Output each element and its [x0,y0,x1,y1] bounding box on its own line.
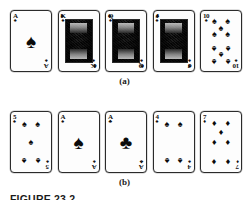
card-corner-index-top-left: A♠ [13,13,18,24]
spade-suit-icon: ♠ [164,120,169,129]
card-row-a: A♠A♠♠K♠K♠♠♠Q♠Q♠♠♠J♠J♠♠♠10♠10♠♠♠♠♠♠♠♠♠♠♠ [10,10,242,72]
card-corner-index-bottom-right: A♠ [92,159,97,170]
card-rank-label: A [139,164,144,170]
card-corner-index-bottom-right: 4♠ [188,159,191,170]
club-suit-icon: ♣ [108,119,113,125]
card-row-b: 5♠5♠♠♠♠♠♠A♠A♠♠A♣A♣♣4♠4♠♠♠♠♠7♦7♦♦♦♦♦♦♦♦ [10,111,242,173]
spade-suit-icon: ♠ [225,44,230,53]
card-corner-index-bottom-right: 5♠ [46,159,49,170]
spade-suit-icon: ♠ [225,17,230,26]
spade-suit-icon: ♠ [46,159,49,165]
spade-suit-icon: ♠ [225,30,230,39]
playing-card-figure: A♠A♠♠K♠K♠♠♠Q♠Q♠♠♠J♠J♠♠♠10♠10♠♠♠♠♠♠♠♠♠♠♠ … [0,0,249,200]
card-pip-field: ♦♦♦♦♦♦♦ [209,117,233,167]
diamond-suit-icon: ♦ [219,128,224,137]
card-corner-index-top-left: 7♦ [203,114,206,125]
court-card-artwork [112,19,140,63]
playing-card-k-spade[interactable]: K♠K♠♠♠ [58,10,100,72]
spade-suit-icon: ♠ [156,13,160,20]
panel-label-a: (a) [0,76,249,86]
spade-suit-icon: ♠ [212,44,217,53]
card-corner-index-top-left: 4♠ [156,114,159,125]
card-rank-label: A [44,63,49,69]
spade-suit-icon: ♠ [29,138,34,147]
spade-suit-icon: ♠ [93,62,97,69]
card-corner-index-bottom-right: A♣ [139,159,144,170]
diamond-suit-icon: ♦ [212,157,217,166]
spade-suit-icon: ♠ [219,50,224,59]
spade-suit-icon: ♠ [22,120,27,129]
playing-card-10-spade[interactable]: 10♠10♠♠♠♠♠♠♠♠♠♠♠ [200,10,242,72]
club-suit-icon: ♣ [120,133,132,152]
card-corner-index-top-left: A♠ [61,114,66,125]
card-corner-index-top-left: 5♠ [13,114,16,125]
card-rank-label: 4 [188,164,191,170]
spade-suit-icon: ♠ [188,62,192,69]
spade-suit-icon: ♠ [212,30,217,39]
card-corner-index-bottom-right: 10♠ [233,58,239,69]
spade-suit-icon: ♠ [26,32,36,51]
playing-card-5-spade[interactable]: 5♠5♠♠♠♠♠♠ [10,111,52,173]
card-pip-field: ♠♠♠♠♠♠♠♠♠♠ [209,16,233,66]
court-card-artwork [65,19,93,63]
spade-suit-icon: ♠ [73,133,83,152]
diamond-suit-icon: ♦ [225,157,230,166]
spade-suit-icon: ♠ [140,62,144,69]
playing-card-j-spade[interactable]: J♠J♠♠♠ [153,10,195,72]
spade-suit-icon: ♠ [164,156,169,165]
spade-suit-icon: ♠ [35,156,40,165]
spade-suit-icon: ♠ [13,119,16,125]
playing-card-a-club[interactable]: A♣A♣♣ [105,111,147,173]
card-pip-field: ♠♠♠♠♠ [19,117,43,167]
spade-suit-icon: ♠ [225,57,230,66]
diamond-suit-icon: ♦ [212,119,217,128]
card-corner-index-bottom-right: A♠ [44,58,49,69]
card-corner-index-top-left: A♣ [108,114,113,125]
spade-suit-icon: ♠ [61,13,65,20]
card-rank-label: 7 [236,164,239,170]
playing-card-4-spade[interactable]: 4♠4♠♠♠♠♠ [153,111,195,173]
figure-caption: FIGURE 23.2 [10,193,75,200]
card-rank-label: A [92,164,97,170]
spade-suit-icon: ♠ [178,156,183,165]
spade-suit-icon: ♠ [108,13,112,20]
card-rank-label: 10 [233,63,239,69]
spade-suit-icon: ♠ [156,119,159,125]
diamond-suit-icon: ♦ [212,138,217,147]
diamond-suit-icon: ♦ [203,119,206,125]
card-rank-label: 5 [46,164,49,170]
playing-card-q-spade[interactable]: Q♠Q♠♠♠ [105,10,147,72]
card-pip-field: ♠♠♠♠ [162,117,186,167]
spade-suit-icon: ♠ [219,24,224,33]
diamond-suit-icon: ♦ [236,159,239,165]
panel-label-b: (b) [0,177,249,187]
diamond-suit-icon: ♦ [225,138,230,147]
spade-suit-icon: ♠ [35,120,40,129]
spade-suit-icon: ♠ [178,120,183,129]
spade-suit-icon: ♠ [212,57,217,66]
playing-card-a-spade[interactable]: A♠A♠♠ [58,111,100,173]
card-corner-index-bottom-right: 7♦ [236,159,239,170]
diamond-suit-icon: ♦ [225,119,230,128]
spade-suit-icon: ♠ [22,156,27,165]
spade-suit-icon: ♠ [212,17,217,26]
court-card-artwork [160,19,188,63]
playing-card-7-diamond[interactable]: 7♦7♦♦♦♦♦♦♦♦ [200,111,242,173]
playing-card-a-spade[interactable]: A♠A♠♠ [10,10,52,72]
